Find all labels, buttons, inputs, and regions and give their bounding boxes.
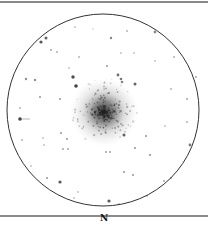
star [164, 125, 166, 127]
star [59, 98, 61, 100]
star [46, 177, 48, 179]
star [25, 78, 27, 80]
star [195, 76, 197, 78]
star [56, 51, 58, 53]
star [133, 52, 135, 54]
star [43, 144, 45, 146]
star [68, 67, 70, 69]
star [66, 138, 68, 140]
star [189, 144, 192, 147]
star [71, 75, 74, 78]
globular-cluster [70, 78, 138, 146]
star [123, 171, 125, 173]
star [42, 137, 44, 139]
star [107, 199, 110, 202]
star [154, 31, 157, 34]
star [39, 40, 42, 43]
star [34, 79, 36, 81]
star [146, 195, 148, 197]
star [117, 74, 120, 77]
star [110, 37, 112, 39]
star [45, 37, 48, 40]
star [30, 165, 32, 167]
star [62, 148, 64, 150]
north-label: N [97, 213, 111, 223]
star [170, 88, 172, 90]
star [58, 180, 61, 183]
star [120, 78, 123, 81]
star [126, 30, 128, 32]
star [21, 139, 23, 141]
star [154, 60, 156, 62]
star [118, 203, 120, 205]
star [77, 191, 79, 193]
star [120, 52, 122, 54]
star [19, 107, 21, 109]
star [170, 177, 172, 179]
star [73, 197, 75, 199]
star [132, 174, 134, 176]
star [134, 147, 136, 149]
star [145, 135, 147, 137]
star-field [0, 0, 208, 225]
star [186, 98, 188, 100]
star [106, 65, 108, 67]
star [74, 26, 76, 28]
star [163, 180, 165, 182]
star [67, 148, 69, 150]
star [149, 154, 151, 156]
star [92, 28, 94, 30]
star [134, 83, 137, 86]
star [74, 84, 78, 88]
star [60, 132, 62, 134]
star [173, 56, 175, 58]
star [121, 81, 124, 84]
star [105, 151, 107, 153]
star [50, 49, 52, 51]
star [78, 56, 80, 58]
star [109, 151, 111, 153]
star [186, 121, 188, 123]
star [123, 134, 126, 137]
star [39, 96, 41, 98]
